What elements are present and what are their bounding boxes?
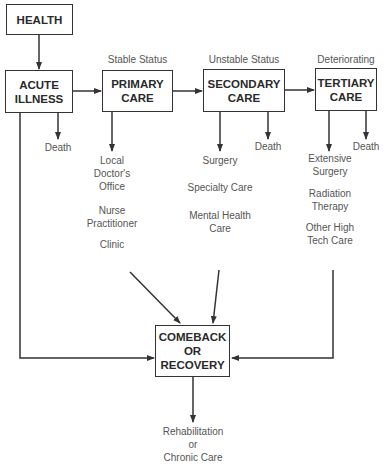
outcome-line: Chronic Care xyxy=(153,451,233,464)
service-other-high-tech-care: Other High Tech Care xyxy=(298,221,362,247)
node-comeback-recovery: COMEBACK OR RECOVERY xyxy=(155,325,230,377)
node-label-line: RECOVERY xyxy=(160,358,224,372)
service-line: Other High xyxy=(298,221,362,234)
service-line: Extensive xyxy=(298,152,362,165)
node-label-line: CARE xyxy=(121,91,154,105)
service-local-doctors-office: Local Doctor's Office xyxy=(82,154,142,193)
outcome-rehabilitation-or-chronic-care: Rehabilitation or Chronic Care xyxy=(153,425,233,464)
node-secondary-care: SECONDARY CARE xyxy=(203,69,285,112)
service-surgery: Surgery xyxy=(185,154,255,167)
status-stable: Stable Status xyxy=(102,53,173,66)
service-clinic: Clinic xyxy=(82,238,142,251)
node-label-line: CARE xyxy=(330,90,363,104)
status-deteriorating: Deteriorating xyxy=(312,53,380,66)
service-mental-health-care: Mental Health Care xyxy=(180,209,260,235)
service-line: Local xyxy=(82,154,142,167)
node-health: HEALTH xyxy=(6,4,73,35)
service-line: Doctor's xyxy=(82,167,142,180)
service-extensive-surgery: Extensive Surgery xyxy=(298,152,362,178)
node-label-line: ILLNESS xyxy=(15,92,64,106)
outcome-death-acute: Death xyxy=(40,141,76,154)
node-label-line: ACUTE xyxy=(19,78,59,92)
service-radiation-therapy: Radiation Therapy xyxy=(298,187,362,213)
node-acute-illness: ACUTE ILLNESS xyxy=(5,70,73,113)
service-line: Practitioner xyxy=(82,217,142,230)
service-line: Therapy xyxy=(298,200,362,213)
node-label-line: TERTIARY xyxy=(317,76,374,90)
node-primary-care: PRIMARY CARE xyxy=(102,70,173,112)
outcome-line: or xyxy=(153,438,233,451)
node-health-label: HEALTH xyxy=(17,13,63,27)
node-label-line: PRIMARY xyxy=(111,77,164,91)
service-line: Nurse xyxy=(82,204,142,217)
service-line: Surgery xyxy=(298,165,362,178)
service-line: Surgery xyxy=(185,154,255,167)
service-line: Clinic xyxy=(82,238,142,251)
service-line: Mental Health xyxy=(180,209,260,222)
node-label-line: SECONDARY xyxy=(207,77,280,91)
status-unstable: Unstable Status xyxy=(203,53,285,66)
node-label-line: COMEBACK xyxy=(159,330,227,344)
node-label-line: CARE xyxy=(228,91,261,105)
service-nurse-practitioner: Nurse Practitioner xyxy=(82,204,142,230)
node-label-line: OR xyxy=(184,344,201,358)
service-line: Tech Care xyxy=(298,234,362,247)
service-line: Radiation xyxy=(298,187,362,200)
service-line: Specialty Care xyxy=(180,181,260,194)
outcome-death-secondary: Death xyxy=(250,140,286,153)
node-tertiary-care: TERTIARY CARE xyxy=(315,68,377,111)
outcome-line: Rehabilitation xyxy=(153,425,233,438)
service-line: Care xyxy=(180,222,260,235)
service-line: Office xyxy=(82,180,142,193)
service-specialty-care: Specialty Care xyxy=(180,181,260,194)
